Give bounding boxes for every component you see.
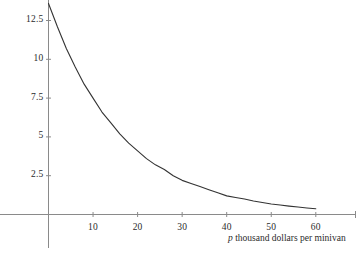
- demand-curve: [49, 3, 316, 208]
- x-tick-label: 10: [73, 222, 113, 232]
- x-tick-label: 50: [251, 222, 291, 232]
- y-tick-label: 5: [39, 130, 44, 140]
- x-axis-label: p thousand dollars per minivan: [228, 233, 346, 243]
- y-tick-label: 12.5: [26, 14, 43, 24]
- y-tick-label: 10: [34, 53, 44, 63]
- chart-figure: 2.557.51012.5 102030405060 p thousand do…: [0, 0, 362, 253]
- x-tick-label: 20: [118, 222, 158, 232]
- x-tick-label: 60: [296, 222, 336, 232]
- x-tick-label: 40: [207, 222, 247, 232]
- x-tick-label: 30: [162, 222, 202, 232]
- chart-plot-area: [0, 0, 362, 253]
- x-axis-label-text: thousand dollars per minivan: [233, 233, 346, 243]
- y-tick-label: 2.5: [31, 169, 43, 179]
- y-tick-label: 7.5: [31, 92, 43, 102]
